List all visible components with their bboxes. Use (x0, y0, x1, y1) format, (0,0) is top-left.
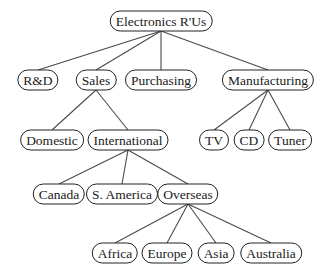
node-purchasing: Purchasing (125, 70, 197, 91)
node-africa: Africa (92, 243, 138, 264)
edge-overseas-australia (188, 204, 271, 243)
edge-root-sales (96, 31, 161, 70)
node-asia: Asia (198, 243, 235, 264)
edge-manufacturing-tv (214, 90, 268, 130)
node-cd: CD (234, 130, 265, 151)
edge-manufacturing-tuner (268, 90, 290, 130)
node-international: International (88, 130, 169, 151)
node-tv: TV (199, 130, 229, 151)
edge-sales-domestic (52, 90, 96, 130)
node-europe: Europe (142, 243, 193, 264)
edge-overseas-asia (188, 204, 216, 243)
edge-root-rnd (38, 31, 161, 70)
node-manufacturing: Manufacturing (222, 70, 314, 91)
edge-sales-international (96, 90, 128, 130)
node-canada: Canada (33, 184, 85, 205)
node-tuner: Tuner (268, 130, 312, 151)
node-sales: Sales (76, 70, 117, 91)
node-root: Electronics R'Us (110, 11, 213, 32)
edge-root-manufacturing (161, 31, 268, 70)
org-chart-diagram: Electronics R'UsR&DSalesPurchasingManufa… (0, 0, 319, 278)
node-samerica: S. America (86, 184, 158, 205)
edge-manufacturing-cd (249, 90, 268, 130)
edge-international-canada (59, 150, 128, 184)
edge-international-samerica (122, 150, 128, 184)
node-australia: Australia (240, 243, 302, 264)
node-rnd: R&D (17, 70, 58, 91)
node-domestic: Domestic (20, 130, 84, 151)
edge-international-overseas (128, 150, 188, 184)
node-overseas: Overseas (157, 184, 218, 205)
